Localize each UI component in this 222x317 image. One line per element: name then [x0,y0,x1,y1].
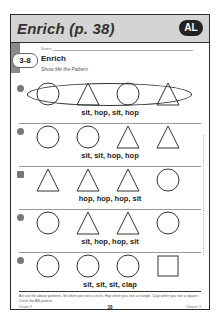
shape-sequence [31,167,191,193]
instructions: Act out the above patterns. Sit when you… [19,291,201,304]
shape-sequence [31,253,191,279]
triangle-shape [75,167,101,193]
shape-sequence [31,210,191,236]
pattern-row: sit, hop, sit, hop [11,79,209,124]
page-header: Enrich (p. 38) AL [11,15,209,43]
footer-chapter: Chapter 3 [186,305,201,309]
circle-shape [115,253,141,279]
header-title: Enrich (p. 38) [17,20,115,37]
pattern-row: sit, hop, hop, sit [11,208,209,253]
lesson-number-badge: 3-8 [12,53,38,68]
triangle-shape [75,81,101,107]
worksheet-title: Enrich [41,54,66,63]
circle-shape [35,81,61,107]
triangle-shape [115,124,141,150]
name-label: Name [41,46,52,51]
triangle-shape [155,124,181,150]
shape-sequence [31,81,191,107]
name-line [53,50,193,51]
level-badge: AL [179,20,203,36]
triangle-shape [75,210,101,236]
circle-shape [75,124,101,150]
worksheet-subtitle: Show Me the Pattern [41,66,88,72]
triangle-shape [155,81,181,107]
number-5-icon [17,257,24,264]
circle-shape [75,253,101,279]
pattern-caption: sit, sit, sit, clap [11,280,209,289]
circle-shape [35,253,61,279]
circle-shape [115,81,141,107]
pattern-row: hop, hop, hop, sit [11,165,209,210]
pattern-row: sit, sit, hop, hop [11,122,209,167]
square-shape [155,253,181,279]
circle-shape [35,124,61,150]
number-1-icon [17,85,24,92]
circle-shape [35,210,61,236]
number-2-icon [17,128,24,135]
pattern-caption: sit, sit, hop, hop [11,151,209,160]
triangle-shape [115,210,141,236]
pattern-caption: hop, hop, hop, sit [11,194,209,203]
pattern-row: sit, sit, sit, clap [11,251,209,296]
shape-sequence [31,124,191,150]
fish-icon [17,214,24,221]
triangle-shape [35,167,61,193]
number-3-icon [17,171,24,178]
pattern-caption: sit, hop, sit, hop [11,108,209,117]
pattern-caption: sit, hop, hop, sit [11,237,209,246]
copyright-strip [203,135,207,255]
worksheet-page: Enrich (p. 38) AL 3-8 Name Enrich Show M… [10,14,210,310]
triangle-shape [115,167,141,193]
circle-shape [155,167,181,193]
circle-shape [155,210,181,236]
footer-page-number: 38 [19,305,201,310]
